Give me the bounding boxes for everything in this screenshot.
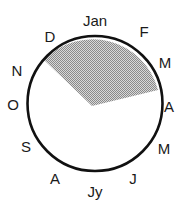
month-label: A: [164, 98, 174, 115]
month-label: O: [7, 96, 19, 113]
shaded-sector: [44, 39, 158, 106]
month-label: N: [12, 62, 23, 79]
month-label: D: [45, 28, 56, 45]
month-label: A: [50, 170, 60, 187]
month-label: Jan: [83, 12, 107, 29]
month-label: S: [21, 138, 31, 155]
month-label: M: [159, 54, 172, 71]
month-label: J: [129, 170, 137, 187]
month-label: Jy: [88, 183, 104, 200]
month-label: M: [158, 140, 171, 157]
month-label: F: [139, 23, 148, 40]
year-circle-diagram: JanFMAMJJyASOND: [0, 0, 192, 212]
